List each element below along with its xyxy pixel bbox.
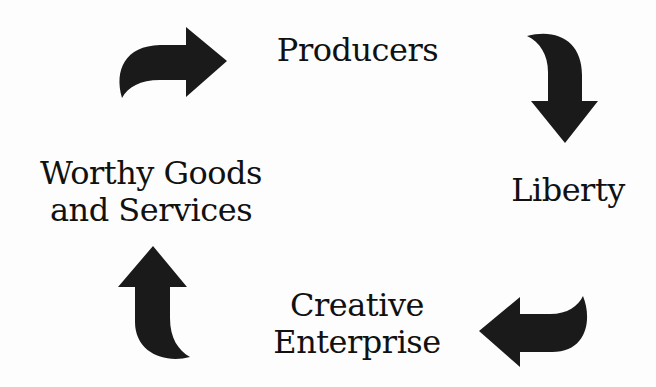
curved-arrow-left-icon (479, 296, 587, 367)
node-producers-line-1: Producers (270, 32, 445, 69)
cycle-diagram: Producers Liberty Creative Enterprise Wo… (0, 0, 656, 387)
node-producers: Producers (270, 32, 445, 69)
node-creative-enterprise-line-2: Enterprise (262, 324, 452, 361)
curved-arrow-down-icon (527, 34, 598, 143)
node-creative-enterprise-line-1: Creative (262, 287, 452, 324)
node-creative-enterprise: Creative Enterprise (262, 287, 452, 361)
curved-arrow-up-icon (118, 246, 190, 359)
node-worthy-goods-line-2: and Services (22, 192, 280, 229)
curved-arrow-right-icon (120, 27, 227, 98)
node-liberty: Liberty (503, 172, 633, 209)
node-worthy-goods-and-services: Worthy Goods and Services (22, 155, 280, 229)
node-worthy-goods-line-1: Worthy Goods (22, 155, 280, 192)
node-liberty-line-1: Liberty (503, 172, 633, 209)
